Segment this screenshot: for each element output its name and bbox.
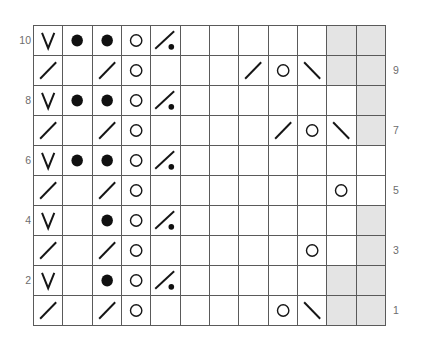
stitch-cell[interactable] [210, 116, 239, 146]
stitch-cell[interactable] [239, 236, 268, 266]
stitch-cell[interactable] [269, 86, 298, 116]
stitch-cell[interactable] [239, 56, 268, 86]
stitch-cell[interactable] [298, 206, 327, 236]
stitch-cell[interactable] [122, 236, 151, 266]
stitch-cell[interactable] [269, 56, 298, 86]
stitch-cell[interactable] [269, 116, 298, 146]
stitch-cell[interactable] [327, 146, 356, 176]
stitch-cell[interactable] [181, 176, 210, 206]
stitch-cell[interactable] [122, 296, 151, 326]
stitch-cell[interactable] [239, 116, 268, 146]
stitch-cell[interactable] [122, 86, 151, 116]
stitch-cell[interactable] [269, 176, 298, 206]
stitch-cell[interactable] [34, 236, 63, 266]
stitch-cell[interactable] [122, 146, 151, 176]
stitch-cell[interactable] [210, 206, 239, 236]
stitch-cell[interactable] [151, 206, 180, 236]
stitch-cell[interactable] [181, 146, 210, 176]
no-stitch-cell[interactable] [327, 266, 356, 296]
no-stitch-cell[interactable] [357, 206, 386, 236]
stitch-cell[interactable] [63, 266, 92, 296]
stitch-cell[interactable] [151, 266, 180, 296]
stitch-cell[interactable] [93, 56, 122, 86]
stitch-cell[interactable] [151, 26, 180, 56]
no-stitch-cell[interactable] [327, 296, 356, 326]
stitch-cell[interactable] [210, 296, 239, 326]
stitch-cell[interactable] [93, 146, 122, 176]
stitch-cell[interactable] [122, 26, 151, 56]
stitch-cell[interactable] [357, 146, 386, 176]
stitch-cell[interactable] [298, 56, 327, 86]
stitch-cell[interactable] [327, 236, 356, 266]
stitch-cell[interactable] [151, 236, 180, 266]
stitch-cell[interactable] [210, 26, 239, 56]
stitch-cell[interactable] [34, 86, 63, 116]
stitch-cell[interactable] [239, 146, 268, 176]
stitch-cell[interactable] [327, 176, 356, 206]
stitch-cell[interactable] [93, 266, 122, 296]
stitch-cell[interactable] [93, 86, 122, 116]
stitch-cell[interactable] [239, 266, 268, 296]
stitch-cell[interactable] [63, 296, 92, 326]
stitch-cell[interactable] [298, 236, 327, 266]
stitch-cell[interactable] [122, 206, 151, 236]
stitch-cell[interactable] [151, 296, 180, 326]
stitch-cell[interactable] [269, 266, 298, 296]
stitch-cell[interactable] [34, 296, 63, 326]
stitch-cell[interactable] [269, 296, 298, 326]
stitch-cell[interactable] [122, 266, 151, 296]
stitch-cell[interactable] [298, 176, 327, 206]
no-stitch-cell[interactable] [357, 266, 386, 296]
stitch-cell[interactable] [239, 86, 268, 116]
stitch-cell[interactable] [181, 206, 210, 236]
no-stitch-cell[interactable] [357, 26, 386, 56]
stitch-cell[interactable] [122, 176, 151, 206]
stitch-cell[interactable] [298, 266, 327, 296]
stitch-cell[interactable] [93, 116, 122, 146]
stitch-cell[interactable] [34, 56, 63, 86]
stitch-cell[interactable] [298, 296, 327, 326]
stitch-cell[interactable] [298, 26, 327, 56]
stitch-cell[interactable] [93, 296, 122, 326]
stitch-cell[interactable] [151, 86, 180, 116]
stitch-cell[interactable] [63, 176, 92, 206]
stitch-cell[interactable] [151, 116, 180, 146]
stitch-cell[interactable] [327, 116, 356, 146]
stitch-cell[interactable] [269, 236, 298, 266]
no-stitch-cell[interactable] [327, 26, 356, 56]
stitch-cell[interactable] [63, 86, 92, 116]
stitch-cell[interactable] [298, 116, 327, 146]
stitch-cell[interactable] [93, 236, 122, 266]
stitch-cell[interactable] [327, 86, 356, 116]
stitch-cell[interactable] [181, 86, 210, 116]
stitch-cell[interactable] [298, 146, 327, 176]
stitch-cell[interactable] [34, 26, 63, 56]
stitch-cell[interactable] [122, 116, 151, 146]
stitch-cell[interactable] [181, 296, 210, 326]
stitch-cell[interactable] [327, 206, 356, 236]
stitch-cell[interactable] [63, 116, 92, 146]
stitch-cell[interactable] [357, 176, 386, 206]
stitch-cell[interactable] [151, 146, 180, 176]
no-stitch-cell[interactable] [357, 86, 386, 116]
stitch-cell[interactable] [34, 146, 63, 176]
stitch-cell[interactable] [151, 176, 180, 206]
stitch-cell[interactable] [63, 206, 92, 236]
stitch-cell[interactable] [181, 116, 210, 146]
stitch-cell[interactable] [34, 266, 63, 296]
stitch-cell[interactable] [239, 26, 268, 56]
stitch-cell[interactable] [93, 26, 122, 56]
stitch-cell[interactable] [269, 26, 298, 56]
stitch-cell[interactable] [181, 236, 210, 266]
no-stitch-cell[interactable] [357, 116, 386, 146]
stitch-cell[interactable] [210, 176, 239, 206]
no-stitch-cell[interactable] [357, 56, 386, 86]
stitch-cell[interactable] [34, 116, 63, 146]
stitch-cell[interactable] [63, 236, 92, 266]
stitch-cell[interactable] [298, 86, 327, 116]
stitch-cell[interactable] [210, 146, 239, 176]
no-stitch-cell[interactable] [357, 296, 386, 326]
stitch-cell[interactable] [181, 26, 210, 56]
stitch-cell[interactable] [93, 206, 122, 236]
stitch-cell[interactable] [210, 56, 239, 86]
